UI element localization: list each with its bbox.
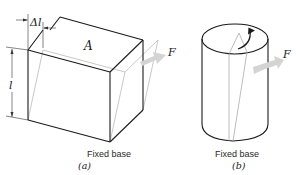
delta-l-label: Δl — [29, 16, 42, 29]
area-label: A — [83, 39, 93, 53]
original-block-outline — [28, 17, 143, 142]
panel-b-cylinder: F Fixed base (b) — [202, 24, 291, 171]
panel-a-block: Δl l A F Fixed base (a) — [6, 14, 176, 171]
twist-lines — [229, 33, 247, 141]
cylinder-top — [202, 24, 268, 54]
fixed-base-label-a: Fixed base — [87, 149, 131, 159]
shear-torsion-diagram: Δl l A F Fixed base (a) — [0, 0, 296, 175]
force-label-a: F — [167, 46, 176, 59]
panel-a-caption: (a) — [78, 160, 91, 171]
force-label-b: F — [282, 48, 291, 61]
fixed-base-label-b: Fixed base — [215, 149, 259, 159]
panel-b-caption: (b) — [232, 160, 246, 171]
height-label: l — [9, 79, 13, 92]
